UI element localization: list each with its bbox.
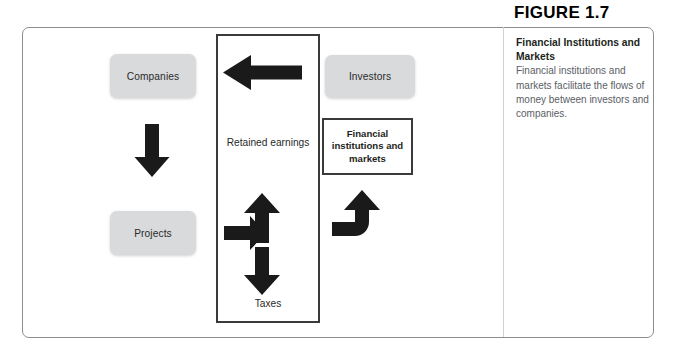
node-investors-label: Investors xyxy=(349,71,391,82)
arrow-companies-to-projects xyxy=(135,124,170,177)
node-companies-label: Companies xyxy=(127,71,179,82)
flow-diagram: Companies Projects Investors Financial i… xyxy=(0,0,503,355)
node-investors: Investors xyxy=(325,55,415,98)
arrow-markets-to-investors xyxy=(332,190,380,236)
caption-body: Financial institutions and markets facil… xyxy=(516,64,651,122)
node-fim-label: Financial institutions and markets xyxy=(324,128,411,166)
figure-caption: Financial Institutions and Markets Finan… xyxy=(516,36,651,122)
node-projects-label: Projects xyxy=(134,228,172,239)
label-taxes: Taxes xyxy=(224,297,312,310)
label-retained-earnings: Retained earnings xyxy=(224,136,312,149)
caption-title: Financial Institutions and Markets xyxy=(516,36,651,63)
figure-number-label: FIGURE 1.7 xyxy=(514,3,610,23)
node-financial-institutions-and-markets: Financial institutions and markets xyxy=(322,118,413,175)
panel-divider xyxy=(503,27,504,337)
firm-boundary-box xyxy=(216,34,320,323)
node-companies: Companies xyxy=(110,54,196,98)
node-projects: Projects xyxy=(110,211,196,255)
